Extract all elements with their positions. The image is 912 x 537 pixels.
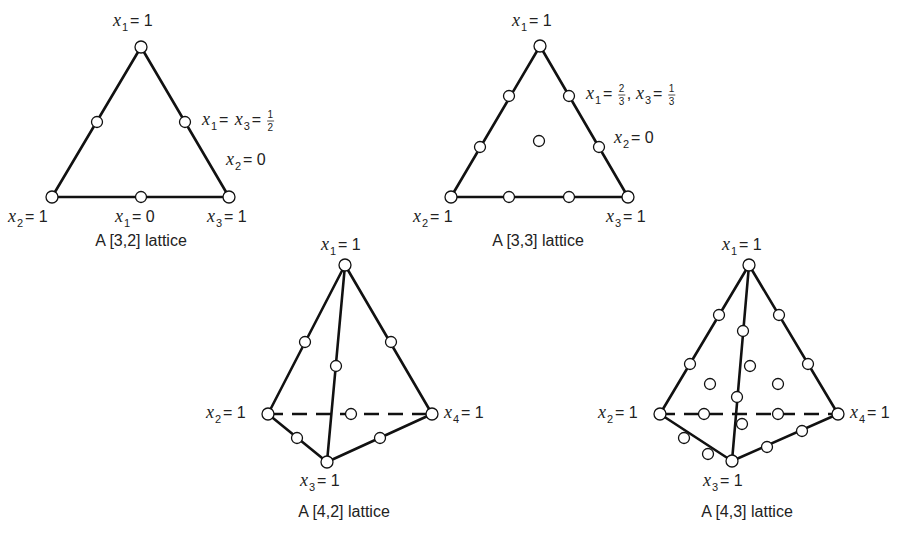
edge [451,46,540,197]
variable-subscript: 2 [235,160,241,172]
variable-symbol: x [234,109,243,129]
edge [660,414,732,461]
variable-subscript: 4 [453,413,459,425]
lattice-point [386,337,397,348]
lattice-3-2: x1 = 1x2 = 1x1 = 0x3 = 1x2 = 0x1 = x3 = … [7,10,274,249]
label-value: = 1 [623,208,646,225]
coordinate-label: x2 = 1 [597,402,638,425]
fraction-label: x1 = 23, x3 = 13 [585,83,675,107]
coordinate-label: x3 = 1 [206,206,247,229]
lattice-point [534,136,545,147]
fraction-label: x1 = x3 = 12 [201,109,274,133]
label-value: = 1 [615,404,638,421]
lattice-3-3: x1 = 1x2 = 1x3 = 1x2 = 0x1 = 23, x3 = 13… [412,10,675,249]
variable-subscript: 1 [124,217,130,229]
lattice-caption: A [3,3] lattice [492,232,584,249]
lattice-point [504,192,515,203]
vertex-node [832,408,844,420]
variable-subscript: 3 [615,217,621,229]
variable-symbol: x [597,402,606,422]
variable-subscript: 1 [330,245,336,257]
vertex-node [135,41,147,53]
variable-symbol: x [412,206,421,226]
variable-symbol: x [206,206,215,226]
lattice-point [705,379,716,390]
coordinate-label: x1 = 1 [721,234,762,257]
label-value: = 1 [529,12,552,29]
label-value: = 0 [243,151,266,168]
lattice-point [300,337,311,348]
vertex-node [262,408,274,420]
variable-symbol: x [585,83,594,103]
lattice-point [564,192,575,203]
variable-symbol: x [225,149,234,169]
fraction-denominator: 3 [619,96,625,107]
coordinate-label: x1 = 1 [511,10,552,33]
edge [540,46,628,197]
lattice-point [346,409,357,420]
lattice-point [703,449,714,460]
operator: = [653,85,662,102]
variable-symbol: x [613,127,622,147]
variable-symbol: x [702,470,711,490]
label-value: = 1 [430,208,453,225]
vertex-node [743,259,755,271]
lattice-point [699,409,710,420]
label-value: = 0 [132,208,155,225]
lattice-point [679,433,690,444]
variable-symbol: x [635,83,644,103]
lattice-caption: A [4,3] lattice [701,503,793,520]
coordinate-label: x4 = 1 [849,402,890,425]
lattice-caption: A [4,2] lattice [298,503,390,520]
vertex-node [445,191,457,203]
vertex-node [426,408,438,420]
lattice-point [180,117,191,128]
lattice-point [737,419,748,430]
variable-subscript: 2 [607,413,613,425]
fraction-denominator: 2 [268,122,274,133]
label-value: = 1 [317,472,340,489]
variable-symbol: x [205,402,214,422]
label-value: = 1 [338,236,361,253]
label-value: = 0 [631,129,654,146]
vertex-node [534,40,546,52]
label-value: = 1 [720,472,743,489]
fraction-denominator: 3 [669,96,675,107]
label-value: = 1 [867,404,890,421]
lattice-point [732,392,743,403]
label-value: = 1 [224,208,247,225]
lattice-point [92,117,103,128]
lattice-4-3: x1 = 1x2 = 1x4 = 1x3 = 1A [4,3] lattice [597,234,890,520]
variable-symbol: x [320,234,329,254]
lattice-point [504,91,515,102]
lattice-point [803,359,814,370]
coordinate-label: x2 = 1 [412,206,453,229]
variable-symbol: x [443,402,452,422]
coordinate-label: x4 = 1 [443,402,484,425]
variable-subscript: 1 [521,21,527,33]
coordinate-label: x2 = 1 [205,402,246,425]
variable-subscript: 3 [216,217,222,229]
variable-subscript: 1 [211,120,217,132]
variable-subscript: 1 [122,21,128,33]
lattice-point [797,426,808,437]
lattice-point [331,361,342,372]
vertex-node [223,191,235,203]
operator: = [252,111,261,128]
variable-subscript: 2 [422,217,428,229]
lattice-caption: A [3,2] lattice [95,232,187,249]
coordinate-label: x3 = 1 [702,470,743,493]
variable-symbol: x [299,470,308,490]
fraction-numerator: 1 [669,83,675,94]
lattice-point [375,433,386,444]
variable-subscript: 4 [859,413,865,425]
variable-subscript: 3 [645,94,651,106]
variable-subscript: 2 [623,138,629,150]
fraction-numerator: 2 [619,83,625,94]
vertex-node [321,456,333,468]
label-value: = 1 [739,236,762,253]
lattice-point [774,310,785,321]
variable-subscript: 2 [17,217,23,229]
lattice-point [564,91,575,102]
variable-subscript: 1 [731,245,737,257]
